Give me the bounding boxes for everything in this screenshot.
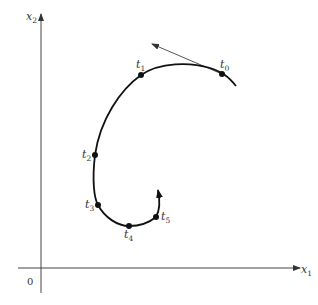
label-t0: t0 [220, 58, 229, 73]
x1-axis-label: x1 [301, 263, 312, 278]
label-t5: t5 [161, 210, 170, 225]
label-t3: t3 [85, 198, 94, 213]
trajectory-diagram: x2 x1 0 t0 t1 t2 t3 t4 t5 [0, 0, 318, 305]
trajectory-curve [94, 64, 236, 226]
point-t2 [92, 152, 98, 158]
point-t5 [153, 214, 159, 220]
label-t2: t2 [82, 148, 91, 163]
label-t4: t4 [124, 228, 133, 243]
tangent-arrow [152, 44, 222, 74]
origin-label: 0 [27, 276, 33, 287]
label-t1: t1 [136, 58, 145, 73]
x2-axis-label: x2 [26, 10, 37, 25]
point-t3 [95, 202, 101, 208]
